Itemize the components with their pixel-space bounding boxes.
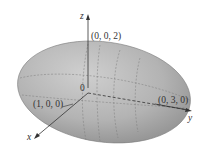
- origin-label: 0: [80, 84, 85, 94]
- point-z-label: (0, 0, 2): [91, 32, 121, 42]
- point-x-label: (1, 0, 0): [33, 100, 63, 110]
- point-y-label: (0, 3, 0): [158, 96, 188, 106]
- z-axis-label: z: [80, 12, 84, 22]
- ellipsoid-surface: [11, 30, 197, 152]
- x-axis-label: x: [27, 133, 31, 143]
- y-axis-label: y: [188, 114, 192, 124]
- ellipsoid-diagram: [0, 0, 207, 152]
